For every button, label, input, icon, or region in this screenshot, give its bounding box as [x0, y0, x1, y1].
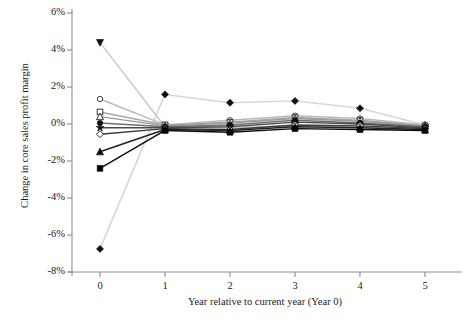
- marker-diamond: [97, 245, 104, 252]
- marker-square: [227, 130, 233, 136]
- y-tick-label: -2%: [19, 154, 65, 165]
- series-decile-10-square-filled: [97, 126, 428, 171]
- marker-square: [162, 128, 168, 134]
- marker-circle-open: [97, 96, 102, 101]
- series-decile-2-diamond-top: [97, 91, 429, 252]
- y-tick-label: 0%: [19, 117, 65, 128]
- x-tick-label: 5: [410, 280, 440, 291]
- x-tick-label: 3: [280, 280, 310, 291]
- y-tick-label: -6%: [19, 228, 65, 239]
- y-tick-label: 6%: [19, 6, 65, 17]
- x-tick-label: 1: [150, 280, 180, 291]
- marker-square: [357, 127, 363, 133]
- marker-diamond: [227, 99, 234, 106]
- series-line-decile-1-triangle-down: [100, 43, 425, 128]
- marker-square: [97, 166, 103, 172]
- y-tick-label: 4%: [19, 43, 65, 54]
- marker-square: [292, 126, 298, 132]
- y-tick-label: -8%: [19, 265, 65, 276]
- x-axis-label: Year relative to current year (Year 0): [100, 296, 430, 307]
- x-tick-label: 0: [85, 280, 115, 291]
- marker-diamond: [162, 91, 169, 98]
- marker-diamond-open: [97, 131, 104, 138]
- marker-square: [422, 128, 428, 134]
- marker-diamond: [292, 97, 299, 104]
- y-tick-label: -4%: [19, 191, 65, 202]
- x-tick-label: 4: [345, 280, 375, 291]
- chart-figure: Change in core sales profit margin Year …: [0, 0, 470, 322]
- marker-star: [96, 124, 104, 131]
- marker-diamond: [357, 105, 364, 112]
- x-tick-label: 2: [215, 280, 245, 291]
- y-tick-label: 2%: [19, 80, 65, 91]
- plot-area: [0, 0, 470, 322]
